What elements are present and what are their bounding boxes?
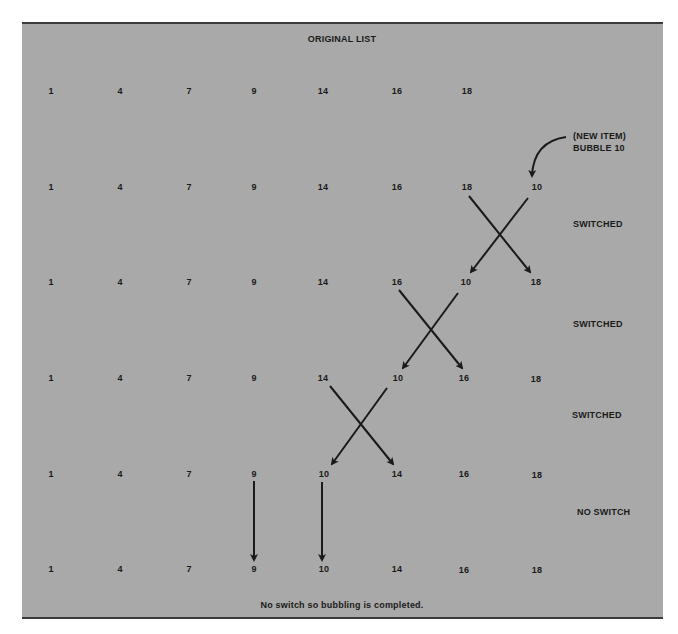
list-value: 10 — [461, 277, 471, 287]
list-value: 9 — [251, 182, 256, 192]
list-value: 14 — [392, 469, 402, 479]
diagram-title: ORIGINAL LIST — [308, 34, 376, 44]
list-value: 16 — [392, 86, 402, 96]
new-item-note-line2: BUBBLE 10 — [573, 143, 625, 153]
list-value: 1 — [48, 373, 53, 383]
list-value: 18 — [532, 470, 542, 480]
list-value: 9 — [251, 86, 256, 96]
list-value: 7 — [186, 564, 191, 574]
list-value: 1 — [48, 277, 53, 287]
list-value: 18 — [462, 86, 472, 96]
list-value: 4 — [117, 277, 122, 287]
list-value: 4 — [117, 469, 122, 479]
list-value: 18 — [531, 374, 541, 384]
diagram-panel — [22, 22, 663, 619]
list-value: 16 — [392, 182, 402, 192]
list-value: 7 — [186, 373, 191, 383]
list-value: 14 — [318, 277, 328, 287]
list-value: 4 — [117, 564, 122, 574]
list-value: 14 — [318, 86, 328, 96]
list-value: 4 — [117, 373, 122, 383]
list-value: 1 — [48, 86, 53, 96]
list-value: 16 — [459, 565, 469, 575]
list-value: 10 — [319, 564, 329, 574]
list-value: 9 — [251, 564, 256, 574]
list-value: 16 — [459, 373, 469, 383]
list-value: 7 — [186, 86, 191, 96]
status-label: NO SWITCH — [577, 507, 630, 517]
status-label: SWITCHED — [572, 410, 622, 420]
list-value: 10 — [319, 469, 329, 479]
list-value: 7 — [186, 469, 191, 479]
list-value: 18 — [532, 565, 542, 575]
list-value: 4 — [117, 86, 122, 96]
list-value: 7 — [186, 182, 191, 192]
list-value: 14 — [318, 182, 328, 192]
list-value: 1 — [48, 182, 53, 192]
list-value: 18 — [531, 277, 541, 287]
list-value: 18 — [462, 182, 472, 192]
list-value: 10 — [393, 373, 403, 383]
list-value: 16 — [459, 469, 469, 479]
new-item-note-line1: (NEW ITEM) — [573, 131, 626, 141]
list-value: 1 — [48, 469, 53, 479]
status-label: SWITCHED — [573, 319, 623, 329]
list-value: 9 — [251, 277, 256, 287]
list-value: 14 — [318, 373, 328, 383]
footer-note: No switch so bubbling is completed. — [260, 600, 423, 610]
list-value: 9 — [251, 469, 256, 479]
list-value: 9 — [251, 373, 256, 383]
list-value: 10 — [532, 182, 542, 192]
list-value: 14 — [392, 564, 402, 574]
list-value: 1 — [48, 564, 53, 574]
list-value: 7 — [186, 277, 191, 287]
list-value: 16 — [392, 277, 402, 287]
status-label: SWITCHED — [573, 219, 623, 229]
list-value: 4 — [117, 182, 122, 192]
